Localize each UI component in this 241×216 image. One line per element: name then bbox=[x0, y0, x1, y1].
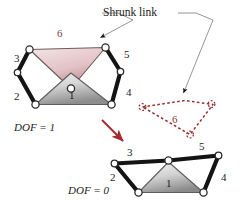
lower-link-3-bar bbox=[115, 161, 169, 164]
upper-link-4-bar bbox=[112, 72, 121, 105]
upper-link-4-label: 4 bbox=[126, 87, 132, 98]
upper-link-3-label: 3 bbox=[14, 53, 20, 64]
upper-dof-label: DOF = 1 bbox=[14, 122, 55, 133]
upper-link-5-label: 5 bbox=[124, 49, 130, 60]
lower-link-5-label: 5 bbox=[199, 141, 205, 152]
upper-link-2-label: 2 bbox=[14, 91, 20, 102]
kinematic-linkage-figure: Shrunk link 6 3 2 5 4 1 DOF = 1 6 3 2 5 … bbox=[0, 0, 241, 216]
shrunk-link-callout-label: Shrunk link bbox=[103, 7, 157, 19]
lower-mechanism-group bbox=[111, 152, 222, 196]
figure-canvas bbox=[0, 0, 241, 216]
transition-arrow bbox=[102, 120, 123, 141]
lower-link-2-label: 2 bbox=[110, 172, 116, 183]
upper-link-6-label: 6 bbox=[57, 28, 63, 39]
lower-link-4-bar bbox=[204, 156, 219, 193]
lower-link-4-label: 4 bbox=[221, 172, 227, 183]
lower-link-5-bar bbox=[169, 156, 219, 161]
upper-link-2-bar bbox=[18, 73, 36, 105]
shrunk-link-6-label: 6 bbox=[172, 114, 178, 125]
lower-dof-label: DOF = 0 bbox=[68, 185, 109, 196]
upper-link-1-label: 1 bbox=[69, 90, 75, 101]
lower-link-1-label: 1 bbox=[166, 178, 172, 189]
lower-link-2-bar bbox=[115, 164, 139, 193]
lower-link-3-label: 3 bbox=[127, 147, 133, 158]
